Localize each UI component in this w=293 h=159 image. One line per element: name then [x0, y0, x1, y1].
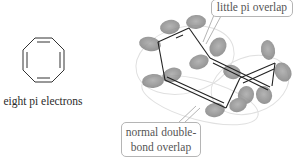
- normal-double-bond-overlap-label-line2: bond overlap: [125, 140, 197, 155]
- planar-molecule-caption: eight pi electrons: [0, 95, 86, 107]
- planar-cyclooctatetraene-structure: [23, 38, 64, 82]
- normal-double-bond-overlap-label-line1: normal double-: [125, 125, 197, 140]
- little-pi-overlap-callout: little pi overlap: [211, 0, 293, 17]
- normal-double-bond-overlap-callout: normal double- bond overlap: [121, 122, 201, 157]
- little-pi-overlap-label: little pi overlap: [217, 1, 287, 13]
